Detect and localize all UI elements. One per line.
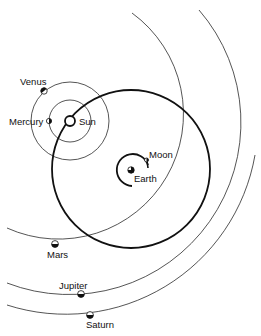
jupiter-label: Jupiter (59, 280, 88, 291)
moon-label: Moon (149, 149, 173, 160)
mercury-icon (46, 118, 51, 123)
moon-icon (145, 158, 149, 162)
mars-icon (52, 241, 59, 248)
venus-label: Venus (20, 76, 47, 87)
mars-label: Mars (47, 249, 68, 260)
sun-label: Sun (79, 116, 96, 127)
mercury-label: Mercury (9, 116, 44, 127)
saturn-icon (87, 312, 94, 319)
jupiter-orbit (7, 10, 241, 295)
jupiter-icon (78, 291, 85, 298)
saturn-label: Saturn (86, 319, 114, 330)
venus-icon (39, 86, 47, 94)
earth-label: Earth (134, 173, 157, 184)
sun-icon (65, 116, 75, 126)
tychonic-system-diagram: Venus Mercury Sun Moon Earth Mars Jupite… (0, 0, 261, 336)
saturn-orbit (7, 155, 255, 314)
